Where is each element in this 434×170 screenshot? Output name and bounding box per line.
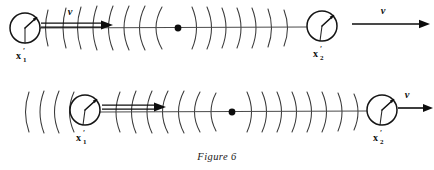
- wavefront-arc: [354, 94, 358, 130]
- left-body-bottom: [70, 95, 100, 125]
- wavefront-arc: [252, 8, 256, 48]
- position-label-prime: ′: [23, 47, 25, 56]
- bottom-row-group: v x 1 ′ x 2 ′: [26, 89, 434, 146]
- velocity-label-right-bottom: v: [405, 89, 410, 100]
- position-label-subscript: 2: [320, 54, 324, 62]
- velocity-arrow-head: [419, 20, 430, 28]
- left-body-top: [10, 13, 40, 43]
- right-body-top: [307, 11, 337, 41]
- velocity-arrow-head: [154, 103, 166, 112]
- wavefront-arc: [207, 7, 212, 49]
- right-velocity-arrow-top: [352, 20, 430, 28]
- velocity-label-right-top: v: [381, 5, 386, 16]
- bottom-row-wavefronts-far-left: [26, 91, 75, 133]
- position-label-subscript: 1: [83, 138, 87, 146]
- position-label-base: x: [373, 132, 378, 143]
- position-label-prime: ′: [320, 45, 322, 54]
- wavefront-arc: [268, 9, 272, 47]
- position-label-base: x: [76, 132, 81, 143]
- wavefront-arc: [40, 91, 44, 133]
- source-dot: [175, 25, 182, 32]
- position-label-prime: ′: [83, 129, 85, 138]
- physics-figure: v v x 1 ′ x 2 ′: [0, 0, 434, 170]
- position-label-base: x: [313, 48, 318, 59]
- figure-canvas: v v x 1 ′ x 2 ′: [0, 0, 434, 170]
- velocity-label-left-top: v: [68, 6, 73, 17]
- bottom-row-wavefronts-right: [247, 92, 358, 132]
- source-dot: [229, 109, 236, 116]
- wavefront-arc: [26, 92, 30, 132]
- wavefront-arc: [277, 92, 282, 132]
- wavefront-arc: [262, 92, 267, 132]
- wavefront-arc: [222, 8, 226, 48]
- wavefront-arc: [338, 93, 342, 131]
- wavefront-arc: [322, 92, 327, 132]
- top-row-wavefronts-right: [192, 7, 288, 49]
- position-label-subscript: 2: [380, 138, 384, 146]
- wavefront-arc: [55, 91, 60, 133]
- position-label-prime: ′: [380, 129, 382, 138]
- right-body-bottom: [367, 95, 397, 125]
- left-body-label-top: x 1 ′: [16, 47, 27, 64]
- wavefront-arc: [284, 10, 288, 46]
- wavefront-arc: [292, 92, 297, 132]
- right-velocity-arrow-bottom: [398, 104, 433, 112]
- position-label-subscript: 1: [23, 56, 27, 64]
- left-body-label-bottom: x 1 ′: [76, 129, 87, 146]
- wavefront-arc: [307, 92, 312, 132]
- right-body-label-top: x 2 ′: [313, 45, 324, 62]
- velocity-arrow-head: [423, 104, 433, 112]
- position-label-base: x: [16, 50, 21, 61]
- top-row-group: v v x 1 ′ x 2 ′: [10, 5, 430, 64]
- wavefront-arc: [237, 8, 241, 48]
- left-velocity-arrow-bottom: [102, 103, 166, 112]
- figure-caption: Figure 6: [196, 151, 237, 162]
- right-body-label-bottom: x 2 ′: [373, 129, 384, 146]
